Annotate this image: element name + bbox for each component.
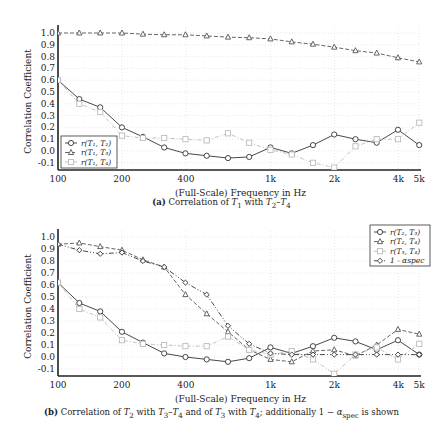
chart-a-plot: -0.10.00.10.20.30.40.50.60.70.80.91.0100… xyxy=(0,0,443,212)
circle-marker-icon xyxy=(204,153,209,158)
caption-b-label: (b) xyxy=(44,407,58,417)
y-tick-label: 0.3 xyxy=(41,111,56,121)
circle-marker-icon xyxy=(98,309,103,314)
circle-marker-icon xyxy=(204,357,209,362)
square-marker-icon xyxy=(289,152,294,157)
y-tick-label: 0.2 xyxy=(41,328,55,338)
square-marker-icon xyxy=(377,249,382,254)
circle-marker-icon xyxy=(268,345,273,350)
triangle-marker-icon xyxy=(395,326,400,331)
legend-entry-label: r(T₁, T₂) xyxy=(81,139,111,148)
circle-marker-icon xyxy=(225,359,230,364)
square-marker-icon xyxy=(77,306,82,311)
triangle-marker-icon xyxy=(98,244,103,249)
circle-marker-icon xyxy=(395,127,400,132)
y-axis-title: Correlation Coefficient xyxy=(23,254,33,359)
circle-marker-icon xyxy=(162,351,167,356)
y-tick-label: -0.1 xyxy=(38,364,55,374)
y-tick-label: 0.0 xyxy=(41,352,56,362)
x-tick-label: 2k xyxy=(329,380,341,390)
caption-b-text: and of xyxy=(183,407,215,417)
square-marker-icon xyxy=(119,133,124,138)
series-3 xyxy=(55,242,421,358)
square-marker-icon xyxy=(183,344,188,349)
legend-entry-label: r(T₃, T₄) xyxy=(390,247,420,256)
y-tick-label: 0.1 xyxy=(41,134,55,144)
x-tick-label: 4k xyxy=(393,380,405,390)
circle-marker-icon xyxy=(119,329,124,334)
y-tick-label: 0.1 xyxy=(41,340,55,350)
square-marker-icon xyxy=(395,137,400,142)
square-marker-icon xyxy=(140,341,145,346)
y-tick-label: 0.6 xyxy=(41,75,56,85)
chart-b-plot: -0.10.00.10.20.30.40.50.60.70.80.91.0100… xyxy=(0,212,443,423)
y-tick-label: 1.0 xyxy=(41,28,56,38)
figure-b: -0.10.00.10.20.30.40.50.60.70.80.91.0100… xyxy=(0,212,443,423)
circle-marker-icon xyxy=(225,155,230,160)
x-tick-label: 200 xyxy=(113,380,130,390)
y-tick-label: 0.5 xyxy=(41,87,56,97)
square-marker-icon xyxy=(225,334,230,339)
square-marker-icon xyxy=(374,345,379,350)
y-tick-label: 1.0 xyxy=(41,232,56,242)
circle-marker-icon xyxy=(183,354,188,359)
y-tick-label: 0.6 xyxy=(41,280,56,290)
triangle-marker-icon xyxy=(98,30,103,35)
x-tick-label: 200 xyxy=(113,174,130,184)
caption-b-text: with xyxy=(225,407,249,417)
square-marker-icon xyxy=(98,315,103,320)
square-marker-icon xyxy=(119,338,124,343)
square-marker-icon xyxy=(374,137,379,142)
triangle-marker-icon xyxy=(289,39,294,44)
x-tick-label: 400 xyxy=(177,174,194,184)
x-tick-label: 100 xyxy=(49,380,66,390)
square-marker-icon xyxy=(247,140,252,145)
y-tick-label: 0.5 xyxy=(41,292,56,302)
triangle-marker-icon xyxy=(374,50,379,55)
square-marker-icon xyxy=(310,160,315,165)
circle-marker-icon xyxy=(395,338,400,343)
square-marker-icon xyxy=(417,120,422,125)
square-marker-icon xyxy=(55,280,60,285)
circle-marker-icon xyxy=(377,229,382,234)
caption-b-text: ; additionally 1 − xyxy=(260,407,337,417)
legend: r(T₂, T₃)r(T₂, T₄)r(T₃, T₄)1 - αspec xyxy=(370,225,430,266)
square-marker-icon xyxy=(332,371,337,376)
caption-b: (b) Correlation of T2 with T3–T4 and of … xyxy=(0,407,443,420)
legend-entry-label: r(T₁, T₃) xyxy=(81,148,111,157)
diamond-marker-icon xyxy=(98,251,103,256)
legend-entry-label: 1 - αspec xyxy=(390,256,425,265)
y-tick-label: 0.4 xyxy=(41,99,56,109)
square-marker-icon xyxy=(247,347,252,352)
x-tick-label: 100 xyxy=(49,174,66,184)
triangle-marker-icon xyxy=(225,329,230,334)
x-tick-label: 1k xyxy=(265,174,277,184)
square-marker-icon xyxy=(68,159,73,164)
y-axis-title: Correlation Coefficient xyxy=(23,49,33,154)
square-marker-icon xyxy=(183,137,188,142)
triangle-marker-icon xyxy=(119,30,124,35)
square-marker-icon xyxy=(332,165,337,170)
square-marker-icon xyxy=(204,344,209,349)
triangle-marker-icon xyxy=(183,32,188,37)
diamond-marker-icon xyxy=(225,323,230,328)
y-tick-label: 0.9 xyxy=(41,40,56,50)
caption-a: (a) Correlation of T1 with T2–T4 xyxy=(0,197,443,210)
triangle-marker-icon xyxy=(332,347,337,352)
square-marker-icon xyxy=(162,135,167,140)
circle-marker-icon xyxy=(77,300,82,305)
x-tick-label: 2k xyxy=(329,174,341,184)
x-tick-label: 5k xyxy=(413,380,425,390)
y-tick-label: 0.9 xyxy=(41,244,56,254)
figure-a: -0.10.00.10.20.30.40.50.60.70.80.91.0100… xyxy=(0,0,443,212)
circle-marker-icon xyxy=(68,140,73,145)
square-marker-icon xyxy=(225,131,230,136)
y-tick-label: -0.1 xyxy=(38,158,55,168)
diamond-marker-icon xyxy=(374,352,379,357)
caption-b-sub: spec xyxy=(342,411,358,420)
circle-marker-icon xyxy=(310,143,315,148)
series-line xyxy=(58,283,419,362)
diamond-marker-icon xyxy=(77,248,82,253)
caption-a-sub: 4 xyxy=(286,201,291,210)
legend-entry-label: r(T₂, T₄) xyxy=(390,237,420,246)
